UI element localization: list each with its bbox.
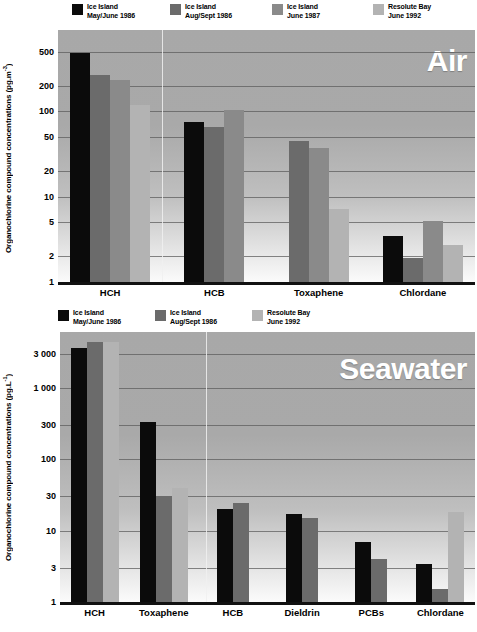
legend-label-sea-2-line2: June 1992 (267, 318, 300, 325)
watermark-air: Air (427, 44, 467, 78)
bar (233, 503, 249, 602)
legend-label-sea-0-line1: Ice Island (73, 309, 104, 316)
y-tick-label: 100 (41, 454, 56, 464)
bar (286, 514, 302, 602)
legend-swatch-2 (272, 4, 283, 15)
bar (110, 80, 130, 282)
legend-label-sea-1-line2: Aug/Sept 1986 (170, 318, 217, 325)
x-axis-category-label: Chlordane (399, 287, 446, 298)
y-tick-label: 5 (49, 217, 54, 227)
x-axis-labels-air: HCHHCBToxapheneChlordane (58, 287, 475, 303)
legend-label-0-line1: Ice Island (87, 3, 118, 10)
x-axis-category-label: HCH (100, 287, 121, 298)
y-tick-label: 3 (51, 563, 56, 573)
x-axis-category-label: PCBs (359, 607, 384, 618)
plot-area-seawater: Seawater (60, 332, 475, 602)
y-axis-label-air: Organochlorine compound concentrations (… (2, 36, 14, 280)
legend-item-1[interactable]: Ice Island Aug/Sept 1986 (170, 3, 232, 20)
legend-label-0: Ice Island May/June 1986 (87, 3, 135, 20)
legend-label-sea-2: Resolute Bay June 1992 (267, 309, 310, 326)
x-axis-category-label: HCB (223, 607, 244, 618)
bar (204, 127, 224, 282)
y-tick-label: 2 (49, 251, 54, 261)
bar (448, 512, 464, 602)
legend-item-sea-0[interactable]: Ice Island May/June 1986 (58, 309, 121, 326)
y-tick-label: 30 (46, 491, 56, 501)
legend-swatch-sea-1 (155, 310, 166, 321)
gridline (60, 459, 475, 460)
chart-panel-seawater: Ice Island May/June 1986 Ice Island Aug/… (0, 306, 477, 632)
y-axis-label-air-exponent: -3 (2, 66, 8, 71)
y-axis-ticks-seawater: 3 0001 000300100301031 (8, 332, 56, 602)
x-axis-category-label: Toxaphene (294, 287, 343, 298)
legend-item-2[interactable]: Ice Island June 1987 (272, 3, 320, 20)
gridline (58, 52, 475, 53)
x-axis-category-label: HCB (204, 287, 225, 298)
y-axis-ticks-air: 500200100502010521 (14, 30, 54, 282)
legend-label-2-line2: June 1987 (287, 12, 320, 19)
legend-item-0[interactable]: Ice Island May/June 1986 (72, 3, 135, 20)
legend-label-2-line1: Ice Island (287, 3, 318, 10)
legend-swatch-1 (170, 4, 181, 15)
legend-item-sea-1[interactable]: Ice Island Aug/Sept 1986 (155, 309, 217, 326)
x-axis-labels-seawater: HCHToxapheneHCBDieldrinPCBsChlordane (60, 607, 475, 623)
y-tick-label: 10 (46, 526, 56, 536)
vertical-separator (162, 30, 163, 282)
legend-label-1-line2: Aug/Sept 1986 (185, 12, 232, 19)
bar (383, 236, 403, 282)
legend-label-sea-1: Ice Island Aug/Sept 1986 (170, 309, 217, 326)
x-axis-category-label: Dieldrin (284, 607, 319, 618)
bar (70, 53, 90, 282)
bar (224, 110, 244, 282)
bar (289, 141, 309, 282)
legend-item-sea-2[interactable]: Resolute Bay June 1992 (252, 309, 310, 326)
legend-swatch-sea-2 (252, 310, 263, 321)
legend-label-1-line1: Ice Island (185, 3, 216, 10)
bar (371, 559, 387, 602)
x-axis-line-air (58, 282, 475, 285)
bar (103, 342, 119, 602)
bar (172, 488, 188, 602)
x-axis-category-label: Chlordane (417, 607, 464, 618)
chart-panel-air: Ice Island May/June 1986 Ice Island Aug/… (0, 0, 477, 306)
y-tick-label: 3 000 (33, 349, 56, 359)
legend-seawater: Ice Island May/June 1986 Ice Island Aug/… (0, 306, 477, 332)
bar (355, 542, 371, 602)
bar (130, 105, 150, 282)
vertical-separator (206, 332, 207, 602)
gridline (60, 388, 475, 389)
legend-label-sea-0: Ice Island May/June 1986 (73, 309, 121, 326)
plot-area-air: Air (58, 30, 475, 282)
legend-air: Ice Island May/June 1986 Ice Island Aug/… (0, 0, 477, 26)
legend-swatch-sea-0 (58, 310, 69, 321)
bar (90, 75, 110, 282)
gridline (60, 568, 475, 569)
legend-item-3[interactable]: Resolute Bay June 1992 (373, 3, 431, 20)
gridline (60, 354, 475, 355)
bar (432, 589, 448, 602)
watermark-seawater: Seawater (339, 352, 467, 386)
bar (71, 348, 87, 602)
legend-label-1: Ice Island Aug/Sept 1986 (185, 3, 232, 20)
bar (309, 148, 329, 282)
legend-swatch-3 (373, 4, 384, 15)
y-tick-label: 100 (39, 106, 54, 116)
legend-swatch-0 (72, 4, 83, 15)
legend-label-sea-1-line1: Ice Island (170, 309, 201, 316)
gridline (60, 496, 475, 497)
bar (140, 422, 156, 602)
bar (217, 509, 233, 602)
y-tick-label: 1 000 (33, 383, 56, 393)
legend-label-3-line2: June 1992 (388, 12, 421, 19)
legend-label-sea-2-line1: Resolute Bay (267, 309, 310, 316)
legend-label-2: Ice Island June 1987 (287, 3, 320, 20)
legend-label-3-line1: Resolute Bay (388, 3, 431, 10)
y-axis-label-air-paren: ) (4, 63, 13, 66)
y-tick-label: 200 (39, 81, 54, 91)
bar (329, 209, 349, 282)
y-tick-label: 1 (49, 277, 54, 287)
y-tick-label: 20 (44, 166, 54, 176)
bar (184, 122, 204, 282)
x-axis-category-label: Toxaphene (139, 607, 188, 618)
x-axis-category-label: HCH (84, 607, 105, 618)
